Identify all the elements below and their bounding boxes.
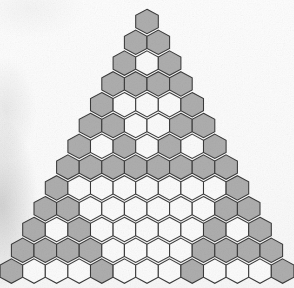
hex-cell: n=4 k=2 = 6 (even) bbox=[136, 93, 159, 117]
hex-cell: n=11 k=11 = 1 (odd) bbox=[260, 238, 283, 262]
hex-cell: n=5 k=1 = 5 (odd) bbox=[102, 113, 125, 137]
hex-cell: n=10 k=4 = 210 (even) bbox=[113, 217, 136, 241]
hex-cell: n=12 k=10 = 66 (even) bbox=[226, 259, 249, 283]
hex-cell: n=10 k=5 = 252 (even) bbox=[136, 217, 159, 241]
hex-cell: n=9 k=8 = 9 (odd) bbox=[215, 197, 238, 221]
hex-cell: n=12 k=2 = 66 (even) bbox=[45, 259, 68, 283]
hex-cell: n=2 k=2 = 1 (odd) bbox=[158, 51, 181, 75]
hex-cell: n=9 k=1 = 9 (odd) bbox=[57, 197, 80, 221]
hex-cell: n=9 k=9 = 1 (odd) bbox=[237, 197, 260, 221]
hex-cell: n=10 k=2 = 45 (odd) bbox=[68, 217, 91, 241]
hex-cell: n=11 k=7 = 330 (even) bbox=[170, 238, 193, 262]
hex-cell: n=4 k=1 = 4 (even) bbox=[113, 93, 136, 117]
hex-cell: n=12 k=6 = 924 (even) bbox=[136, 259, 159, 283]
hex-cell: n=1 k=1 = 1 (odd) bbox=[147, 30, 170, 54]
hex-cell: n=9 k=0 = 1 (odd) bbox=[34, 197, 57, 221]
hex-cell: n=10 k=3 = 120 (even) bbox=[91, 217, 114, 241]
hex-cell: n=5 k=0 = 1 (odd) bbox=[79, 113, 102, 137]
hex-cell: n=12 k=12 = 1 (odd) bbox=[271, 259, 294, 283]
hex-cell: n=11 k=4 = 330 (even) bbox=[102, 238, 125, 262]
hex-cell: n=11 k=0 = 1 (odd) bbox=[11, 238, 34, 262]
hexagon-grid-canvas: n=0 k=0 = 1 (odd)n=1 k=0 = 1 (odd)n=1 k=… bbox=[0, 0, 294, 288]
hex-cell: n=8 k=5 = 56 (even) bbox=[158, 176, 181, 200]
hex-cell: n=11 k=10 = 11 (odd) bbox=[237, 238, 260, 262]
hex-cell: n=8 k=3 = 56 (even) bbox=[113, 176, 136, 200]
hex-cell: n=8 k=1 = 8 (even) bbox=[68, 176, 91, 200]
hex-cell: n=4 k=3 = 4 (even) bbox=[158, 93, 181, 117]
hex-cell: n=10 k=9 = 10 (even) bbox=[226, 217, 249, 241]
hex-cell: n=4 k=0 = 1 (odd) bbox=[91, 93, 114, 117]
hex-cell: n=10 k=6 = 210 (even) bbox=[158, 217, 181, 241]
hex-cell: n=5 k=5 = 1 (odd) bbox=[192, 113, 215, 137]
hex-cell: n=11 k=9 = 55 (odd) bbox=[215, 238, 238, 262]
hex-cell: n=8 k=4 = 70 (even) bbox=[136, 176, 159, 200]
hex-cell: n=10 k=8 = 45 (odd) bbox=[204, 217, 227, 241]
hex-cell: n=3 k=2 = 3 (odd) bbox=[147, 72, 170, 96]
hex-cell: n=12 k=4 = 495 (odd) bbox=[91, 259, 114, 283]
hex-cell: n=3 k=3 = 1 (odd) bbox=[170, 72, 193, 96]
hex-cell: n=5 k=3 = 10 (even) bbox=[147, 113, 170, 137]
hex-cell: n=3 k=0 = 1 (odd) bbox=[102, 72, 125, 96]
hex-cell: n=6 k=2 = 15 (odd) bbox=[113, 134, 136, 158]
hex-cell: n=12 k=7 = 792 (even) bbox=[158, 259, 181, 283]
hex-cell: n=11 k=3 = 165 (odd) bbox=[79, 238, 102, 262]
hex-cell: n=7 k=0 = 1 (odd) bbox=[57, 155, 80, 179]
hex-cell: n=5 k=4 = 5 (odd) bbox=[170, 113, 193, 137]
hex-cell: n=8 k=6 = 28 (even) bbox=[181, 176, 204, 200]
hex-cell: n=9 k=7 = 36 (even) bbox=[192, 197, 215, 221]
hex-cell: n=5 k=2 = 10 (even) bbox=[124, 113, 147, 137]
hex-cell: n=12 k=5 = 792 (even) bbox=[113, 259, 136, 283]
hex-cell: n=12 k=0 = 1 (odd) bbox=[0, 259, 23, 283]
hex-cell: n=9 k=5 = 126 (even) bbox=[147, 197, 170, 221]
hex-cell: n=0 k=0 = 1 (odd) bbox=[136, 9, 159, 33]
hex-cell: n=7 k=1 = 7 (odd) bbox=[79, 155, 102, 179]
hex-cell: n=6 k=3 = 20 (even) bbox=[136, 134, 159, 158]
hex-cell: n=11 k=1 = 11 (odd) bbox=[34, 238, 57, 262]
hex-cell: n=8 k=2 = 28 (even) bbox=[91, 176, 114, 200]
hex-cell: n=8 k=8 = 1 (odd) bbox=[226, 176, 249, 200]
hex-cell: n=9 k=3 = 84 (even) bbox=[102, 197, 125, 221]
hex-cell: n=11 k=8 = 165 (odd) bbox=[192, 238, 215, 262]
hex-cell: n=11 k=5 = 462 (even) bbox=[124, 238, 147, 262]
hex-cell: n=10 k=10 = 1 (odd) bbox=[249, 217, 272, 241]
hex-cell: n=2 k=1 = 2 (even) bbox=[136, 51, 159, 75]
hex-cell: n=10 k=7 = 120 (even) bbox=[181, 217, 204, 241]
hex-cell: n=10 k=1 = 10 (even) bbox=[45, 217, 68, 241]
hex-cell: n=6 k=1 = 6 (even) bbox=[91, 134, 114, 158]
hex-cell: n=12 k=11 = 12 (even) bbox=[249, 259, 272, 283]
pascal-triangle-figure: n=0 k=0 = 1 (odd)n=1 k=0 = 1 (odd)n=1 k=… bbox=[0, 0, 294, 288]
hex-cell: n=7 k=5 = 21 (odd) bbox=[170, 155, 193, 179]
hex-cell: n=8 k=7 = 8 (even) bbox=[204, 176, 227, 200]
hex-cell: n=2 k=0 = 1 (odd) bbox=[113, 51, 136, 75]
hex-cell: n=11 k=6 = 462 (even) bbox=[147, 238, 170, 262]
hex-cell: n=6 k=0 = 1 (odd) bbox=[68, 134, 91, 158]
hex-cell: n=1 k=0 = 1 (odd) bbox=[124, 30, 147, 54]
hex-cell: n=12 k=1 = 12 (even) bbox=[23, 259, 46, 283]
hex-cell: n=3 k=1 = 3 (odd) bbox=[124, 72, 147, 96]
hex-cell: n=9 k=6 = 84 (even) bbox=[170, 197, 193, 221]
hex-cell: n=9 k=4 = 126 (even) bbox=[124, 197, 147, 221]
hex-cell: n=8 k=0 = 1 (odd) bbox=[45, 176, 68, 200]
hex-cell: n=7 k=4 = 35 (odd) bbox=[147, 155, 170, 179]
hex-cell: n=10 k=0 = 1 (odd) bbox=[23, 217, 46, 241]
hex-cell: n=11 k=2 = 55 (odd) bbox=[57, 238, 80, 262]
hex-cell: n=6 k=5 = 6 (even) bbox=[181, 134, 204, 158]
hex-cell: n=6 k=4 = 15 (odd) bbox=[158, 134, 181, 158]
hex-cell: n=7 k=7 = 1 (odd) bbox=[215, 155, 238, 179]
hex-cell: n=12 k=8 = 495 (odd) bbox=[181, 259, 204, 283]
hex-cell: n=4 k=4 = 1 (odd) bbox=[181, 93, 204, 117]
hex-cell: n=7 k=2 = 21 (odd) bbox=[102, 155, 125, 179]
hex-cell: n=12 k=9 = 220 (even) bbox=[204, 259, 227, 283]
hex-cell: n=6 k=6 = 1 (odd) bbox=[204, 134, 227, 158]
hex-cell: n=12 k=3 = 220 (even) bbox=[68, 259, 91, 283]
hex-cell: n=7 k=6 = 7 (odd) bbox=[192, 155, 215, 179]
hex-cell: n=9 k=2 = 36 (even) bbox=[79, 197, 102, 221]
hex-cell: n=7 k=3 = 35 (odd) bbox=[124, 155, 147, 179]
